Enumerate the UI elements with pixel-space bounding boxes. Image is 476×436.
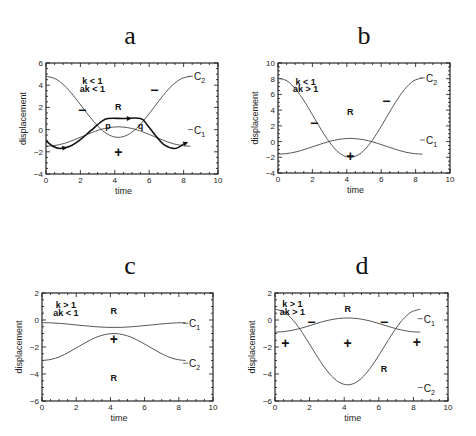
point-label-p: p (105, 121, 111, 131)
y-tick-label: −4 (263, 370, 273, 379)
y-tick-label: 2 (39, 103, 44, 112)
region-label-r: R (111, 373, 118, 383)
figure: a0246810−4−20246timedisplacementC2C1k < … (0, 0, 476, 436)
region-sign-plus: + (110, 331, 118, 347)
parameter-label: ak < 1 (53, 308, 78, 318)
panel-c: c0246810−6−4−202timedisplacementC1C2k > … (14, 251, 218, 423)
region-label-r: R (115, 102, 122, 112)
x-tick-label: 6 (142, 403, 147, 412)
x-tick-label: 4 (342, 403, 347, 412)
region-sign-plus: + (346, 148, 354, 164)
y-axis-label: displacement (247, 320, 257, 374)
x-tick-label: 10 (214, 176, 223, 185)
y-tick-label: 0 (35, 316, 40, 325)
y-tick-label: 8 (271, 75, 276, 84)
y-tick-label: −2 (34, 148, 44, 157)
x-tick-label: 2 (310, 175, 315, 184)
x-tick-label: 6 (147, 176, 152, 185)
panel-title: a (124, 21, 136, 50)
y-axis-label: displacement (14, 320, 24, 374)
region-sign-plus: + (281, 335, 289, 351)
y-tick-label: 2 (35, 289, 40, 298)
region-sign-plus: + (114, 144, 122, 160)
parameter-label: ak > 1 (280, 307, 305, 317)
x-tick-label: 10 (209, 403, 218, 412)
series-c1-line (42, 323, 186, 328)
curve-label-c1: C1 (424, 314, 435, 327)
x-tick-label: 2 (307, 403, 312, 412)
x-tick-label: 6 (379, 175, 384, 184)
y-tick-label: −4 (34, 170, 44, 179)
curve-label-c2: C2 (194, 71, 205, 84)
region-sign-plus: + (413, 334, 421, 350)
y-tick-label: −6 (263, 397, 273, 406)
y-tick-label: 4 (271, 106, 276, 115)
curve-label-c1: C1 (426, 135, 437, 148)
region-sign-minus: − (78, 102, 86, 118)
y-tick-label: 6 (271, 90, 276, 99)
x-tick-label: 8 (413, 175, 418, 184)
region-sign-plus: + (344, 335, 352, 351)
panel-d: d0246810−6−4−202timedisplacementC1C2k > … (247, 251, 453, 423)
x-tick-label: 0 (40, 403, 45, 412)
x-tick-label: 8 (181, 176, 186, 185)
region-label-r: R (381, 364, 388, 374)
panel-title: c (124, 251, 136, 280)
y-axis-label: displacement (18, 91, 28, 145)
arrowhead-icon (127, 116, 132, 121)
x-tick-label: 2 (74, 403, 79, 412)
x-tick-label: 2 (78, 176, 83, 185)
y-tick-label: −6 (30, 397, 40, 406)
curve-label-c1: C1 (189, 318, 200, 331)
y-tick-label: 0 (268, 316, 273, 325)
x-tick-label: 4 (108, 403, 113, 412)
region-sign-minus: − (150, 82, 158, 98)
x-axis-label: time (110, 413, 127, 423)
y-tick-label: 2 (271, 122, 276, 131)
region-label-r: R (111, 306, 118, 316)
point-label-q: q (138, 121, 144, 131)
y-tick-label: −2 (263, 343, 273, 352)
x-tick-label: 10 (444, 403, 453, 412)
parameter-label: ak > 1 (293, 84, 318, 94)
y-tick-label: −4 (266, 169, 276, 178)
y-tick-label: −2 (266, 153, 276, 162)
panel-a: a0246810−4−20246timedisplacementC2C1k < … (18, 21, 223, 196)
region-label-r: R (344, 304, 351, 314)
x-tick-label: 8 (411, 403, 416, 412)
curve-label-c1: C1 (194, 125, 205, 138)
y-tick-label: 2 (268, 289, 273, 298)
x-tick-label: 4 (345, 175, 350, 184)
panel-title: d (356, 251, 369, 280)
x-tick-label: 4 (113, 176, 118, 185)
y-tick-label: 4 (39, 81, 44, 90)
panel-b: b0246810−4−20246810timedisplacementC2C1k… (250, 21, 455, 195)
x-axis-label: time (347, 185, 364, 195)
curve-label-c2: C2 (189, 358, 200, 371)
region-sign-minus: − (310, 115, 318, 131)
panel-title: b (358, 21, 371, 50)
y-tick-label: −4 (30, 370, 40, 379)
series-group (46, 76, 190, 150)
region-sign-minus: − (307, 314, 315, 330)
y-axis-label: displacement (250, 91, 260, 145)
x-tick-label: 6 (377, 403, 382, 412)
x-tick-label: 8 (177, 403, 182, 412)
x-tick-label: 0 (44, 176, 49, 185)
x-tick-label: 0 (276, 175, 281, 184)
y-tick-label: −2 (30, 343, 40, 352)
curve-label-c2: C2 (426, 73, 437, 86)
x-axis-label: time (344, 413, 361, 423)
y-tick-label: 10 (266, 59, 275, 68)
region-label-r: R (347, 107, 354, 117)
parameter-label: ak < 1 (80, 84, 105, 94)
region-sign-minus: − (380, 314, 388, 330)
y-tick-label: 0 (271, 138, 276, 147)
curve-label-c2: C2 (424, 383, 435, 396)
x-axis-label: time (115, 186, 132, 196)
y-tick-label: 6 (39, 59, 44, 68)
x-tick-label: 10 (446, 175, 455, 184)
arrowhead-icon (183, 140, 190, 146)
x-tick-label: 0 (273, 403, 278, 412)
y-tick-label: 0 (39, 126, 44, 135)
